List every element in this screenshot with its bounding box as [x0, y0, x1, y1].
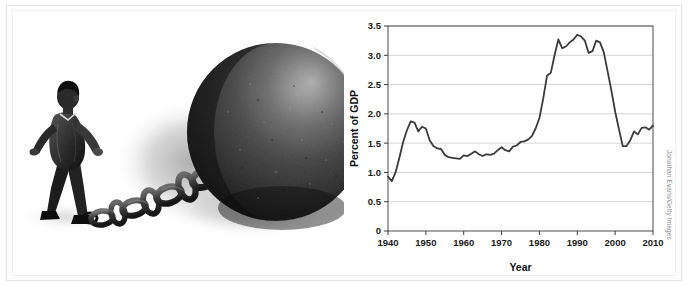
x-tick-label: 2010 — [642, 237, 663, 248]
photo-credit: Jonathan Evans/Getty Images — [662, 150, 676, 270]
y-tick-label: 1.0 — [368, 167, 381, 178]
illustration-svg: Illustration of a businessman in a suit … — [14, 12, 344, 274]
y-tick-label: 2.0 — [368, 108, 381, 119]
figure-page: Illustration of a businessman in a suit … — [0, 0, 688, 287]
x-tick-label: 1950 — [415, 237, 436, 248]
y-tick-label: 3.5 — [368, 20, 382, 31]
ball-and-chain-illustration: Illustration of a businessman in a suit … — [14, 12, 344, 274]
x-tick-label: 1970 — [491, 237, 512, 248]
x-axis-title: Year — [509, 261, 531, 273]
y-tick-label: 2.5 — [368, 79, 382, 90]
x-tick-label: 1990 — [567, 237, 588, 248]
y-tick-label: 3.0 — [368, 50, 381, 61]
y-axis-title: Percent of GDP — [348, 90, 360, 167]
photo-credit-text: Jonathan Evans/Getty Images — [666, 150, 673, 240]
x-tick-label: 2000 — [605, 237, 626, 248]
net-interest-chart: 00.51.01.52.02.53.03.5 19401950196019701… — [344, 12, 666, 274]
x-tick-label: 1940 — [377, 237, 398, 248]
x-tick-label: 1960 — [453, 237, 474, 248]
x-tick-label: 1980 — [529, 237, 550, 248]
y-tick-label: 1.5 — [368, 138, 382, 149]
y-tick-label: 0.5 — [368, 196, 382, 207]
chart-svg: 00.51.01.52.02.53.03.5 19401950196019701… — [344, 12, 666, 274]
y-tick-label: 0 — [376, 225, 381, 236]
